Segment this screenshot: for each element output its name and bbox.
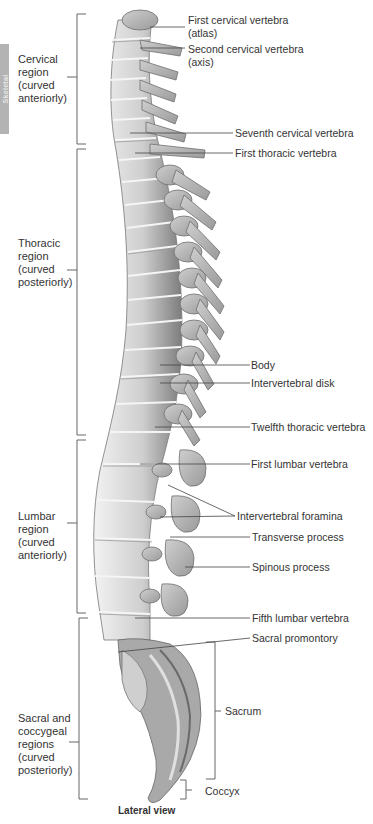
callout-spinous-process: Spinous process <box>252 561 330 574</box>
region-label-thoracic: Thoracic region (curved posteriorly) <box>18 237 72 289</box>
callout-body: Body <box>251 359 275 372</box>
label-line: Thoracic <box>18 237 72 250</box>
callout-text: First cervical vertebra <box>188 14 288 27</box>
callout-coccyx: Coccyx <box>205 785 239 798</box>
callout-sacral-promontory: Sacral promontory <box>252 632 338 645</box>
figure-caption: Lateral view <box>118 805 175 816</box>
callout-intervertebral-foramina: Intervertebral foramina <box>237 510 343 523</box>
callout-seventh-cervical: Seventh cervical vertebra <box>235 127 353 140</box>
callout-first-thoracic: First thoracic vertebra <box>235 147 337 160</box>
callout-first-lumbar: First lumbar vertebra <box>251 458 348 471</box>
region-label-sacral-coccygeal: Sacral and coccygeal regions (curved pos… <box>18 712 72 777</box>
callout-sacrum: Sacrum <box>225 705 261 718</box>
callout-text: Second cervical vertebra <box>188 43 304 56</box>
label-line: anteriorly) <box>18 92 67 105</box>
label-line: region <box>18 250 72 263</box>
label-line: posteriorly) <box>18 276 72 289</box>
callout-text: Intervertebral disk <box>251 377 334 390</box>
callout-text: Sacrum <box>225 705 261 718</box>
region-label-lumbar: Lumbar region (curved anteriorly) <box>18 510 67 562</box>
callout-text: (atlas) <box>188 27 288 40</box>
callout-transverse-process: Transverse process <box>252 531 344 544</box>
label-line: region <box>18 66 67 79</box>
callout-second-cervical: Second cervical vertebra (axis) <box>188 43 304 68</box>
region-label-cervical: Cervical region (curved anteriorly) <box>18 53 67 105</box>
callout-text: Twelfth thoracic vertebra <box>251 421 365 434</box>
callout-text: Sacral promontory <box>252 632 338 645</box>
callout-text: Intervertebral foramina <box>237 510 343 523</box>
callout-intervertebral-disk: Intervertebral disk <box>251 377 334 390</box>
callout-fifth-lumbar: Fifth lumbar vertebra <box>252 612 349 625</box>
callout-text: Seventh cervical vertebra <box>235 127 353 140</box>
callout-text: (axis) <box>188 56 304 69</box>
label-line: (curved <box>18 536 67 549</box>
label-line: anteriorly) <box>18 549 67 562</box>
label-line: Cervical <box>18 53 67 66</box>
label-line: region <box>18 523 67 536</box>
spine-illustration <box>0 0 373 824</box>
callout-text: Body <box>251 359 275 372</box>
label-line: Lumbar <box>18 510 67 523</box>
label-line: (curved <box>18 79 67 92</box>
label-line: regions <box>18 738 72 751</box>
label-line: Sacral and <box>18 712 72 725</box>
label-line: (curved <box>18 751 72 764</box>
label-line: coccygeal <box>18 725 72 738</box>
callout-text: First thoracic vertebra <box>235 147 337 160</box>
label-line: (curved <box>18 263 72 276</box>
callout-twelfth-thoracic: Twelfth thoracic vertebra <box>251 421 365 434</box>
callout-text: First lumbar vertebra <box>251 458 348 471</box>
callout-text: Fifth lumbar vertebra <box>252 612 349 625</box>
callout-text: Coccyx <box>205 785 239 798</box>
sacrum-coccyx <box>118 639 201 803</box>
callout-text: Spinous process <box>252 561 330 574</box>
callout-text: Transverse process <box>252 531 344 544</box>
label-line: posteriorly) <box>18 764 72 777</box>
callout-first-cervical: First cervical vertebra (atlas) <box>188 14 288 39</box>
